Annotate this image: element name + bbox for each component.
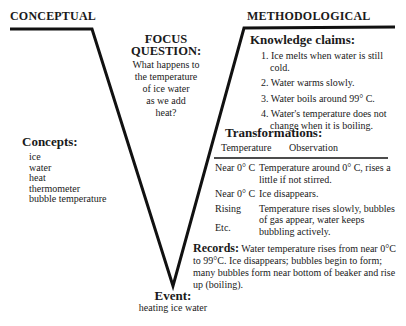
conceptual-heading: CONCEPTUAL bbox=[10, 9, 96, 24]
temperature-header: Temperature bbox=[221, 142, 271, 154]
knowledge-claims-title: Knowledge claims: bbox=[250, 32, 402, 48]
focus-line: of ice water bbox=[128, 83, 204, 95]
concept-item: heat bbox=[29, 173, 106, 184]
claim-item: 3. Water boils around 99° C. bbox=[250, 93, 402, 105]
focus-line: heat? bbox=[128, 107, 204, 119]
knowledge-claims-section: Knowledge claims: 1. Ice melts when wate… bbox=[250, 32, 402, 135]
focus-line: the temperature bbox=[128, 71, 204, 83]
temp-cell: Near 0° C bbox=[215, 162, 259, 185]
event-section: Event: heating ice water bbox=[132, 290, 214, 314]
methodological-heading: METHODOLOGICAL bbox=[247, 9, 370, 24]
focus-question: FOCUS QUESTION: What happens to the temp… bbox=[128, 33, 204, 119]
table-row: Near 0° C Temperature around 0° C, rises… bbox=[215, 162, 395, 185]
obs-cell: Temperature rises slowly, bubbles of gas… bbox=[259, 203, 395, 238]
concept-item: ice bbox=[29, 152, 106, 163]
temp-cell: Near 0° C bbox=[215, 188, 259, 200]
etc-text: Etc. bbox=[215, 222, 231, 234]
records-label: Records: bbox=[193, 241, 239, 255]
focus-line: as we add bbox=[128, 95, 204, 107]
claim-item: 1. Ice melts when water is still cold. bbox=[250, 50, 402, 73]
transformations-table: Near 0° C Temperature around 0° C, rises… bbox=[215, 162, 395, 240]
table-row: Rising Temperature rises slowly, bubbles… bbox=[215, 203, 395, 238]
concepts-title: Concepts: bbox=[22, 134, 106, 150]
table-row: Near 0° C Ice disappears. bbox=[215, 188, 395, 200]
event-text: heating ice water bbox=[132, 302, 214, 314]
observation-header: Observation bbox=[289, 142, 338, 154]
event-title: Event: bbox=[132, 290, 214, 302]
records-section: Records: Water temperature rises from ne… bbox=[193, 242, 401, 291]
transformations-title-wrap: Transformations: bbox=[225, 125, 322, 141]
question-title: QUESTION: bbox=[128, 45, 204, 57]
obs-cell: Temperature around 0° C, rises a little … bbox=[259, 162, 395, 185]
concepts-section: Concepts: ice water heat thermometer bub… bbox=[22, 134, 106, 205]
concept-item: bubble temperature bbox=[29, 194, 106, 205]
focus-line: What happens to bbox=[128, 59, 204, 71]
claim-item: 2. Water warms slowly. bbox=[250, 77, 402, 89]
transformations-title: Transformations: bbox=[225, 125, 322, 141]
obs-cell: Ice disappears. bbox=[259, 188, 395, 200]
